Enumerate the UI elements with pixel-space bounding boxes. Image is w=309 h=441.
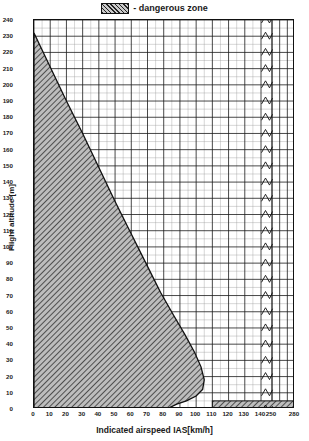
x-axis-tick-label: 30 bbox=[78, 410, 85, 417]
x-axis-tick-label: 250 bbox=[266, 410, 276, 417]
y-axis-tick-label: 80 bbox=[0, 275, 13, 282]
x-axis-tick-label: 110 bbox=[206, 410, 216, 417]
axis-break-marks bbox=[34, 20, 294, 408]
x-axis-tick-label: 80 bbox=[159, 410, 166, 417]
x-axis-tick-label: 20 bbox=[62, 410, 69, 417]
x-axis-tick-label: 40 bbox=[94, 410, 101, 417]
y-axis-tick-label: 110 bbox=[0, 226, 13, 233]
y-axis-tick-label: 130 bbox=[0, 194, 13, 201]
x-axis-tick-label: 60 bbox=[127, 410, 134, 417]
y-axis-title: Flight altitude [m] bbox=[7, 163, 16, 273]
y-axis-tick-label: 170 bbox=[0, 129, 13, 136]
y-axis-tick-label: 30 bbox=[0, 356, 13, 363]
x-axis-tick-label: 0 bbox=[31, 410, 34, 417]
x-axis-tick-label: 120 bbox=[222, 410, 232, 417]
y-axis-tick-label: 160 bbox=[0, 145, 13, 152]
y-axis-tick-label: 190 bbox=[0, 97, 13, 104]
y-axis-tick-label: 0 bbox=[0, 405, 13, 412]
x-axis-tick-label: 140 bbox=[255, 410, 265, 417]
y-axis-tick-label: 240 bbox=[0, 16, 13, 23]
plot-area bbox=[33, 19, 294, 408]
y-axis-tick-label: 140 bbox=[0, 178, 13, 185]
y-axis-tick-label: 210 bbox=[0, 64, 13, 71]
x-axis-tick-label: 280 bbox=[289, 410, 299, 417]
y-axis-tick-label: 60 bbox=[0, 307, 13, 314]
x-axis-tick-label: 90 bbox=[175, 410, 182, 417]
y-axis-tick-label: 180 bbox=[0, 113, 13, 120]
x-axis-tick-label: 50 bbox=[111, 410, 118, 417]
y-axis-tick-label: 150 bbox=[0, 161, 13, 168]
y-axis-tick-label: 50 bbox=[0, 323, 13, 330]
chart-legend: - dangerous zone bbox=[0, 1, 309, 15]
y-axis-tick-label: 100 bbox=[0, 242, 13, 249]
y-axis-tick-label: 10 bbox=[0, 388, 13, 395]
y-axis-tick-label: 40 bbox=[0, 340, 13, 347]
y-axis-tick-label: 230 bbox=[0, 32, 13, 39]
hatched-pattern-swatch-icon bbox=[101, 3, 129, 14]
x-axis-title: Indicated airspeed IAS[km/h] bbox=[0, 425, 309, 435]
y-axis-tick-label: 20 bbox=[0, 372, 13, 379]
x-axis-tick-label: 130 bbox=[239, 410, 249, 417]
legend-label: - dangerous zone bbox=[133, 3, 208, 13]
x-axis-tick-label: 100 bbox=[190, 410, 200, 417]
y-axis-tick-label: 90 bbox=[0, 259, 13, 266]
y-axis-tick-label: 120 bbox=[0, 210, 13, 217]
y-axis-tick-label: 70 bbox=[0, 291, 13, 298]
x-axis-tick-label: 70 bbox=[143, 410, 150, 417]
x-axis-tick-label: 10 bbox=[46, 410, 53, 417]
chart-root: - dangerous zone bbox=[0, 0, 309, 441]
y-axis-tick-label: 200 bbox=[0, 80, 13, 87]
y-axis-tick-label: 220 bbox=[0, 48, 13, 55]
